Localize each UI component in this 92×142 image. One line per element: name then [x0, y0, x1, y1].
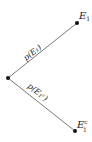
edge-e1c [8, 78, 75, 131]
edge-e1c-label: p(E₁ᶜ) [26, 81, 50, 102]
node-e1-label: E1 [78, 10, 90, 22]
node-e1c-label: Ec1 [76, 118, 88, 133]
root-node [6, 76, 10, 80]
probability-tree: E1 Ec1 p(E₁) p(E₁ᶜ) [0, 0, 92, 142]
node-e1 [75, 21, 79, 25]
